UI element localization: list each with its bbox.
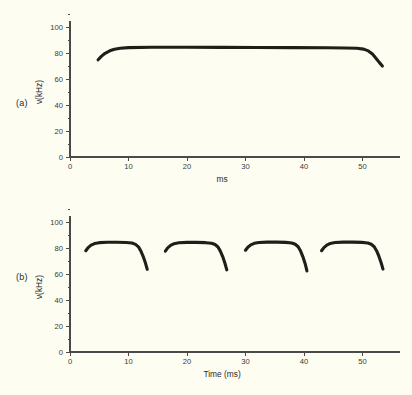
- panel-b-plot: 02040608010001020304050ν(kHz)Time (ms): [0, 195, 412, 395]
- panel-a-plot: 02040608010001020304050ν(kHz)ms: [0, 0, 412, 200]
- data-trace: [98, 47, 382, 66]
- x-tick-label: 20: [183, 162, 191, 171]
- x-tick-label: 30: [241, 357, 249, 366]
- y-tick-label: 100: [50, 218, 63, 227]
- x-tick-label: 40: [300, 162, 308, 171]
- data-trace: [322, 242, 383, 269]
- y-tick-label: 100: [50, 23, 63, 32]
- y-tick-label: 80: [55, 244, 63, 253]
- y-tick-label: 60: [55, 270, 63, 279]
- y-tick-label: 20: [55, 127, 63, 136]
- x-tick-label: 10: [124, 162, 132, 171]
- x-axis-label: ms: [217, 174, 228, 184]
- panel-a-tag: (a): [16, 98, 28, 108]
- figure-container: 02040608010001020304050ν(kHz)ms (a) 0204…: [0, 0, 412, 395]
- data-trace: [86, 242, 147, 269]
- x-tick-label: 40: [300, 357, 308, 366]
- y-tick-label: 20: [55, 322, 63, 331]
- y-axis-label: ν(kHz): [34, 80, 44, 104]
- x-tick-label: 30: [241, 162, 249, 171]
- x-tick-label: 50: [358, 162, 366, 171]
- panel-a: 02040608010001020304050ν(kHz)ms: [0, 0, 412, 200]
- panel-b: 02040608010001020304050ν(kHz)Time (ms): [0, 195, 412, 395]
- y-tick-label: 0: [59, 348, 63, 357]
- y-axis-label: ν(kHz): [34, 275, 44, 299]
- y-tick-label: 40: [55, 101, 63, 110]
- y-tick-label: 40: [55, 296, 63, 305]
- x-tick-label: 20: [183, 357, 191, 366]
- x-tick-label: 0: [68, 162, 72, 171]
- data-trace: [246, 242, 307, 271]
- x-tick-label: 10: [124, 357, 132, 366]
- x-tick-label: 0: [68, 357, 72, 366]
- x-axis-label: Time (ms): [203, 369, 241, 379]
- x-tick-label: 50: [358, 357, 366, 366]
- y-tick-label: 60: [55, 75, 63, 84]
- data-trace: [165, 242, 226, 269]
- panel-b-tag: (b): [16, 272, 28, 282]
- y-tick-label: 80: [55, 49, 63, 58]
- y-tick-label: 0: [59, 153, 63, 162]
